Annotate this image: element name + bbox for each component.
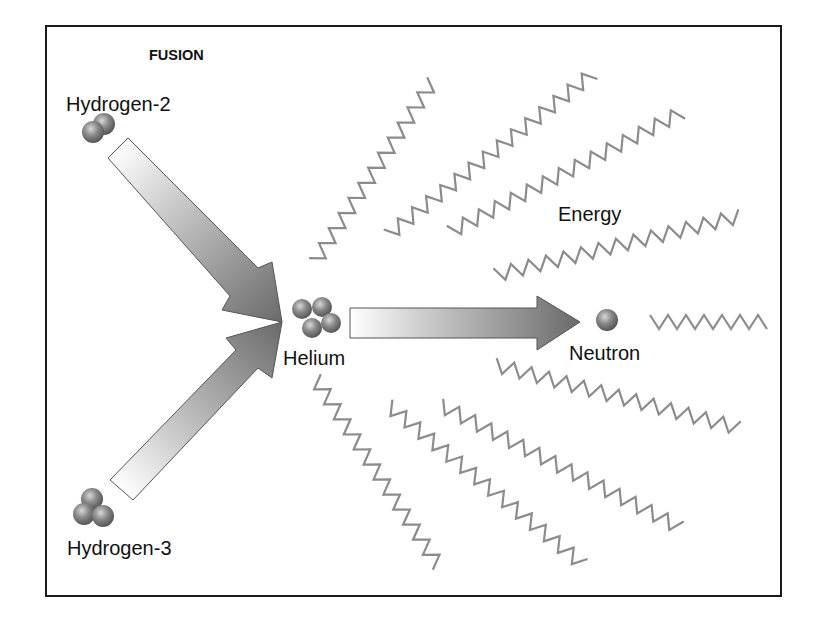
label-helium: Helium [283, 348, 345, 368]
hydrogen3-nucleus-icon [73, 488, 114, 527]
energy-wave-icon [497, 358, 741, 432]
helium-nucleus-icon [292, 297, 341, 338]
diagram-title: FUSION [149, 48, 204, 63]
arrow-hydrogen2-to-helium [108, 138, 282, 322]
label-hydrogen-2: Hydrogen-2 [66, 94, 171, 114]
energy-wave-icon [443, 399, 684, 530]
label-neutron: Neutron [569, 343, 640, 363]
arrow-helium-to-neutron [350, 296, 580, 350]
label-hydrogen-3: Hydrogen-3 [67, 538, 172, 558]
neutron-particle-icon [596, 309, 618, 331]
energy-wave-icon [650, 315, 767, 329]
label-energy: Energy [558, 204, 621, 224]
hydrogen2-nucleus-icon [82, 113, 115, 143]
energy-wave-icon [314, 374, 440, 570]
energy-wave-icon [309, 77, 434, 258]
arrow-hydrogen3-to-helium [110, 322, 282, 500]
